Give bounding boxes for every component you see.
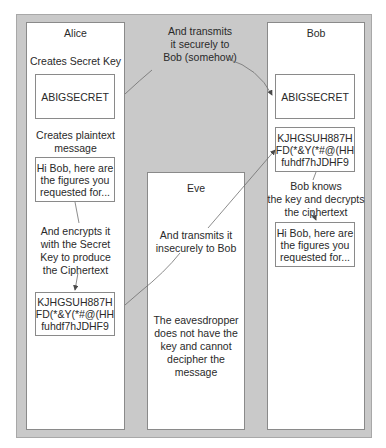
bob-title: Bob (267, 27, 365, 40)
bob-ciphertext-box: KJHGSUH887H FD(*&Y(*#@(HH fuhdf7hJDHF9 (275, 127, 355, 172)
alice-step-create-plaintext: Creates plaintext message (26, 129, 125, 155)
alice-ciphertext-box: KJHGSUH887H FD(*&Y(*#@(HH fuhdf7hJDHF9 (35, 292, 115, 336)
alice-secret-key-box: ABIGSECRET (35, 74, 115, 119)
alice-title: Alice (26, 27, 125, 40)
alice-step-encrypt: And encrypts it with the Secret Key to p… (26, 225, 125, 277)
eve-title: Eve (147, 182, 245, 195)
alice-plaintext-box: Hi Bob, here are the figures you request… (35, 157, 115, 202)
eavesdropper-note: The eavesdropper does not have the key a… (147, 314, 245, 379)
bob-plaintext-box: Hi Bob, here are the figures you request… (275, 222, 355, 267)
bob-secret-key-box: ABIGSECRET (275, 74, 355, 119)
bob-step-decrypt: Bob knows the key and decrypts the ciphe… (267, 180, 365, 219)
insecure-transmit-label: And transmits it insecurely to Bob (147, 229, 245, 255)
secure-transmit-label: And transmits it securely to Bob (someho… (150, 25, 250, 64)
alice-step-create-key: Creates Secret Key (26, 55, 125, 68)
eve-panel (147, 172, 245, 430)
